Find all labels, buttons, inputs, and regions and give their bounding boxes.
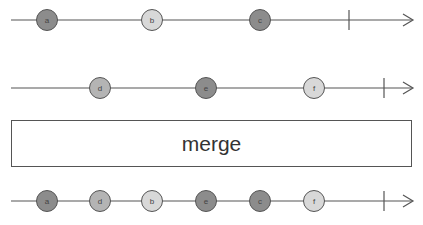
marble-e: e: [196, 191, 217, 212]
marble-label: a: [45, 197, 50, 206]
stream-output: adbecf: [11, 191, 413, 212]
stream-input-1: abc: [11, 10, 413, 31]
marble-label: d: [98, 84, 102, 93]
marble-label: b: [150, 16, 155, 25]
operator-label: merge: [182, 132, 242, 156]
marble-d: d: [90, 78, 111, 99]
stream-input-2: def: [11, 78, 413, 99]
marble-c: c: [250, 191, 271, 212]
marble-a: a: [37, 10, 58, 31]
marble-e: e: [196, 78, 217, 99]
marble-b: b: [142, 191, 163, 212]
marble-c: c: [250, 10, 271, 31]
marble-label: e: [204, 84, 209, 93]
marble-a: a: [37, 191, 58, 212]
marble-label: c: [258, 197, 262, 206]
marble-label: c: [258, 16, 262, 25]
marble-label: b: [150, 197, 155, 206]
marble-b: b: [142, 10, 163, 31]
marble-label: a: [45, 16, 50, 25]
marble-label: e: [204, 197, 209, 206]
marble-diagram: abcdefadbecf: [0, 0, 423, 225]
marble-f: f: [304, 78, 325, 99]
merge-operator-box: merge: [11, 120, 412, 167]
marble-label: d: [98, 197, 102, 206]
marble-d: d: [90, 191, 111, 212]
marble-f: f: [304, 191, 325, 212]
